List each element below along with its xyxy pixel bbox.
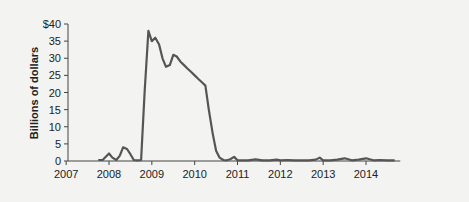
x-tick-label: 2010 (182, 168, 206, 180)
y-tick-label: 25 (49, 69, 61, 81)
y-tick-label: 35 (49, 35, 61, 47)
chart-container: 05101520253035$4020072008200920102011201… (0, 0, 469, 202)
x-tick-label: 2007 (54, 168, 78, 180)
y-tick-label: 5 (55, 138, 61, 150)
y-tick-label: 20 (49, 87, 61, 99)
y-tick-label: $40 (43, 18, 61, 30)
y-tick-label: 15 (49, 104, 61, 116)
x-tick-label: 2008 (97, 168, 121, 180)
y-tick-label: 30 (49, 52, 61, 64)
axis-ticks: 05101520253035$4020072008200920102011201… (43, 18, 379, 180)
data-line (98, 31, 394, 161)
x-tick-label: 2009 (140, 168, 164, 180)
x-tick-label: 2014 (354, 168, 378, 180)
x-tick-label: 2012 (268, 168, 292, 180)
y-axis-label: Billions of dollars (28, 47, 40, 139)
axes (68, 24, 400, 161)
x-tick-label: 2013 (311, 168, 335, 180)
x-tick-label: 2011 (226, 168, 250, 180)
y-tick-label: 10 (49, 121, 61, 133)
line-chart: 05101520253035$4020072008200920102011201… (0, 0, 469, 202)
y-tick-label: 0 (55, 155, 61, 167)
